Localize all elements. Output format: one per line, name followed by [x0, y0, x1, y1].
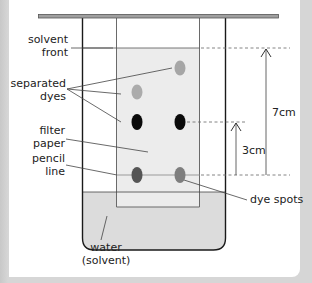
spot-top-right: [175, 61, 186, 76]
label-separated-dyes-line1: separated: [4, 77, 66, 90]
label-filter-paper: filter paper: [12, 124, 65, 150]
spot-black-right: [175, 114, 186, 130]
label-pencil-line-line1: pencil: [12, 152, 65, 165]
leader-pencil-line: [66, 165, 117, 175]
label-filter-paper-line2: paper: [12, 137, 65, 150]
label-pencil-line: pencil line: [12, 152, 65, 178]
support-rod: [39, 15, 279, 19]
leader-dye-black-left: [67, 89, 121, 122]
spot-upper-left: [132, 85, 143, 100]
label-water-line2: (solvent): [78, 254, 134, 267]
spot-start-left: [132, 167, 143, 183]
label-distance-3cm: 3cm: [242, 144, 266, 157]
spot-black-left: [132, 114, 143, 130]
label-solvent-front-line1: solvent: [12, 33, 68, 46]
label-filter-paper-line1: filter: [12, 124, 65, 137]
label-distance-7cm: 7cm: [272, 106, 296, 119]
label-water-solvent: water (solvent): [78, 241, 134, 267]
label-dye-spots: dye spots: [250, 193, 303, 206]
label-water-line1: water: [78, 241, 134, 254]
label-pencil-line-line2: line: [12, 165, 65, 178]
leader-dye-upper-left: [67, 89, 121, 94]
label-separated-dyes: separated dyes: [4, 77, 66, 103]
label-solvent-front-line2: front: [12, 46, 68, 59]
spot-start-right: [175, 167, 186, 183]
label-solvent-front: solvent front: [12, 33, 68, 59]
filter-paper: [117, 48, 200, 207]
label-separated-dyes-line2: dyes: [4, 90, 66, 103]
